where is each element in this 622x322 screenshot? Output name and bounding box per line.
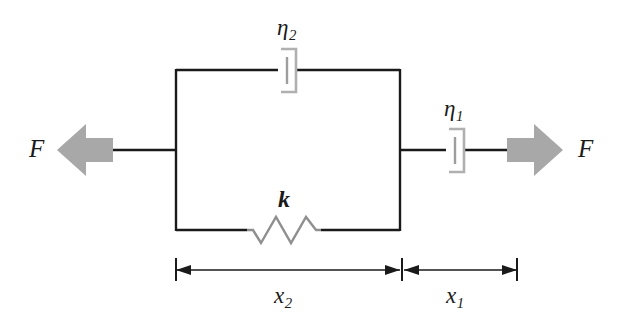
force-arrow-left-shape xyxy=(57,124,113,176)
dashpot-eta2-subscript-text: 2 xyxy=(288,27,296,43)
force-arrow-right-shape xyxy=(507,124,563,176)
dashpot-eta1-label: η1 xyxy=(444,97,463,123)
dimension-x2-arrowhead-right xyxy=(385,265,400,275)
dimension-line-x2 xyxy=(176,258,400,281)
dashpot-eta2-symbol-text: η xyxy=(277,15,288,40)
dimension-x2-symbol-text: x xyxy=(274,283,284,308)
spring-k-coil xyxy=(247,217,321,243)
dashpot-eta2-symbol xyxy=(281,49,296,92)
dashpot-eta1-symbol xyxy=(449,129,464,172)
dimension-x1-subscript-text: 1 xyxy=(456,295,464,311)
dimension-x1-label: x1 xyxy=(446,284,464,310)
spring-k-symbol xyxy=(247,217,321,243)
dimension-x2-label: x2 xyxy=(274,284,292,310)
force-arrow-left xyxy=(57,124,113,176)
spring-k-symbol-text: k xyxy=(278,186,290,212)
force-left-label: F xyxy=(29,136,44,161)
dimension-x2-arrowhead-left xyxy=(176,265,191,275)
dashpot-eta2-label: η2 xyxy=(277,16,296,42)
dashpot-eta2-cylinder xyxy=(281,49,296,92)
dashpot-eta1-symbol-text: η xyxy=(444,96,455,121)
dimension-x2-subscript-text: 2 xyxy=(284,295,292,311)
force-arrow-right xyxy=(507,124,563,176)
mechanical-model-diagram: η2 η1 k F F x2 x1 xyxy=(0,0,622,322)
spring-k-label: k xyxy=(278,187,290,211)
dimension-x1-symbol-text: x xyxy=(446,283,456,308)
force-right-label: F xyxy=(578,136,593,161)
dashpot-eta1-cylinder xyxy=(449,129,464,172)
force-right-symbol-text: F xyxy=(578,135,593,162)
diagram-canvas xyxy=(0,0,622,322)
dashpot-eta1-subscript-text: 1 xyxy=(455,108,463,124)
dimension-x1-arrowhead-left xyxy=(404,265,419,275)
dimension-x1-arrowhead-right xyxy=(502,265,517,275)
force-left-symbol-text: F xyxy=(29,135,44,162)
dimension-line-x1 xyxy=(404,258,517,281)
